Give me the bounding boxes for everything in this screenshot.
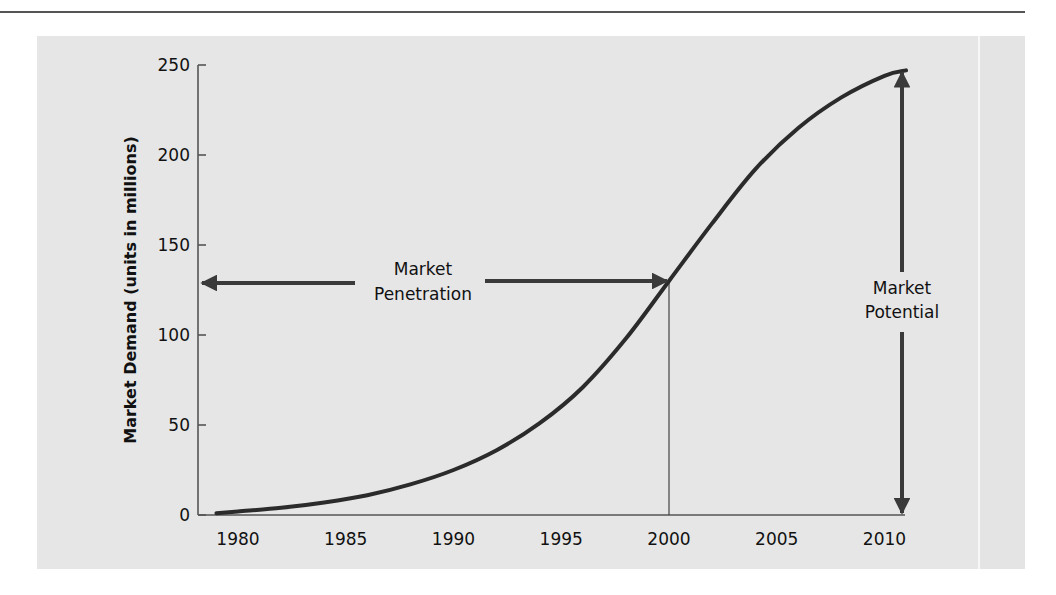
y-tick-label: 0	[179, 505, 190, 525]
market-potential-annotation: Market Potential	[865, 72, 939, 513]
y-tick-labels: 050100150200250	[158, 55, 190, 525]
x-tick-label: 2005	[755, 529, 798, 549]
y-tick-label: 250	[158, 55, 190, 75]
y-tick-label: 150	[158, 235, 190, 255]
x-tick-label: 2010	[863, 529, 906, 549]
y-tick-label: 50	[168, 415, 190, 435]
market-penetration-label-line2: Penetration	[374, 284, 472, 304]
market-penetration-annotation: Market Penetration	[202, 259, 667, 304]
y-tick-label: 200	[158, 145, 190, 165]
y-axis	[198, 65, 206, 515]
x-tick-label: 1980	[216, 529, 259, 549]
x-tick-label: 2000	[647, 529, 690, 549]
y-axis-title: Market Demand (units in millions)	[121, 136, 140, 444]
market-demand-curve	[216, 70, 906, 513]
x-tick-label: 1985	[324, 529, 367, 549]
x-tick-labels: 1980198519901995200020052010	[216, 529, 906, 549]
market-demand-chart: 050100150200250 198019851990199520002005…	[0, 0, 1056, 595]
x-tick-label: 1995	[540, 529, 583, 549]
market-potential-label-line2: Potential	[865, 302, 939, 322]
y-tick-label: 100	[158, 325, 190, 345]
x-tick-label: 1990	[432, 529, 475, 549]
market-penetration-label-line1: Market	[394, 259, 453, 279]
market-potential-label-line1: Market	[873, 278, 932, 298]
